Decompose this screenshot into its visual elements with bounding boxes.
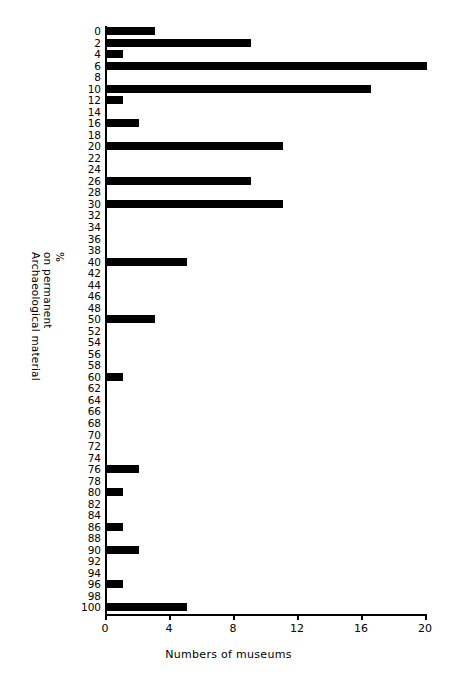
bar-row: [105, 591, 425, 602]
y-tick-label: 0: [61, 26, 101, 37]
bar-row: [105, 464, 425, 475]
bar-row: [105, 107, 425, 118]
y-tick-label: 80: [61, 487, 101, 498]
y-tick-label: 50: [61, 314, 101, 325]
y-tick-label: 54: [61, 337, 101, 348]
bar-row: [105, 556, 425, 567]
x-tick-label: 16: [354, 622, 368, 635]
bar-row: [105, 222, 425, 233]
bar-row: [105, 61, 425, 72]
bar: [107, 373, 123, 381]
bar: [107, 142, 283, 150]
bar: [107, 85, 371, 93]
x-axis-title: Numbers of museums: [0, 648, 457, 661]
bar-row: [105, 199, 425, 210]
bar: [107, 27, 155, 35]
y-tick-label: 76: [61, 464, 101, 475]
bar-row: [105, 84, 425, 95]
y-tick-label: 38: [61, 245, 101, 256]
y-tick-label: 8: [61, 72, 101, 83]
bar-row: [105, 38, 425, 49]
bar-row: [105, 72, 425, 83]
bar-row: [105, 245, 425, 256]
bar-row: [105, 522, 425, 533]
bar-row: [105, 234, 425, 245]
x-tick-label: 4: [166, 622, 173, 635]
bar-row: [105, 360, 425, 371]
bar-row: [105, 337, 425, 348]
bar-row: [105, 176, 425, 187]
y-tick-label: 24: [61, 164, 101, 175]
bar-row: [105, 95, 425, 106]
y-tick-label: 88: [61, 533, 101, 544]
bar: [107, 62, 427, 70]
bar: [107, 546, 139, 554]
bar-row: [105, 383, 425, 394]
bar: [107, 200, 283, 208]
x-tick-mark: [233, 614, 235, 620]
y-tick-label: 34: [61, 222, 101, 233]
bar: [107, 119, 139, 127]
bar-row: [105, 602, 425, 613]
bar: [107, 580, 123, 588]
y-tick-label: 72: [61, 441, 101, 452]
y-axis-tick-labels: 0246810121416182022242628303234363840424…: [57, 26, 101, 614]
y-tick-label: 100: [61, 602, 101, 613]
bar: [107, 523, 123, 531]
bar-row: [105, 418, 425, 429]
bar-row: [105, 395, 425, 406]
x-tick-mark: [105, 614, 107, 620]
x-tick-label: 8: [230, 622, 237, 635]
bar-row: [105, 453, 425, 464]
bar-row: [105, 280, 425, 291]
bar-row: [105, 153, 425, 164]
bar-row: [105, 430, 425, 441]
y-tick-label: 84: [61, 510, 101, 521]
bar-row: [105, 164, 425, 175]
bar-row: [105, 476, 425, 487]
bar-row: [105, 118, 425, 129]
bar-row: [105, 130, 425, 141]
bar-row: [105, 545, 425, 556]
y-tick-label: 68: [61, 418, 101, 429]
bar: [107, 39, 251, 47]
y-tick-label: 20: [61, 141, 101, 152]
plot-area: 048121620: [105, 26, 425, 614]
bar-row: [105, 141, 425, 152]
x-axis-line: [105, 614, 425, 616]
bar-chart: Archaeological material on permanent % 0…: [0, 0, 457, 674]
bar-row: [105, 187, 425, 198]
x-tick-label: 12: [290, 622, 304, 635]
bar-row: [105, 406, 425, 417]
y-tick-label: 42: [61, 268, 101, 279]
bar-row: [105, 499, 425, 510]
bar-row: [105, 372, 425, 383]
bar-row: [105, 303, 425, 314]
bar: [107, 315, 155, 323]
bar-row: [105, 510, 425, 521]
x-tick-label: 0: [102, 622, 109, 635]
bar-row: [105, 487, 425, 498]
bar-row: [105, 326, 425, 337]
x-tick-mark: [425, 614, 427, 620]
y-tick-label: 16: [61, 118, 101, 129]
y-tick-label: 58: [61, 360, 101, 371]
x-tick-mark: [169, 614, 171, 620]
y-tick-label: 12: [61, 95, 101, 106]
y-axis-title-line-2: on permanent: [43, 252, 54, 329]
bar-row: [105, 314, 425, 325]
bar-row: [105, 291, 425, 302]
bar-row: [105, 26, 425, 37]
bar: [107, 177, 251, 185]
bar: [107, 603, 187, 611]
bar: [107, 258, 187, 266]
bar-row: [105, 568, 425, 579]
bar-row: [105, 533, 425, 544]
bar-row: [105, 268, 425, 279]
y-axis-title: Archaeological material on permanent %: [0, 0, 58, 620]
bar-row: [105, 257, 425, 268]
bar-row: [105, 579, 425, 590]
bar-row: [105, 49, 425, 60]
x-tick-mark: [361, 614, 363, 620]
bar: [107, 465, 139, 473]
